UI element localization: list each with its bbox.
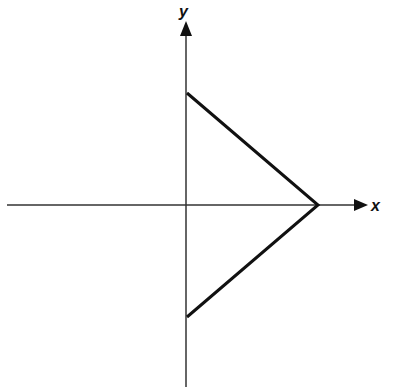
x-axis-arrow-icon — [354, 199, 368, 211]
y-axis-label: y — [178, 3, 189, 20]
x-axis-label: x — [370, 197, 381, 214]
y-axis-arrow-icon — [180, 21, 192, 36]
coordinate-diagram: x y — [0, 0, 404, 387]
